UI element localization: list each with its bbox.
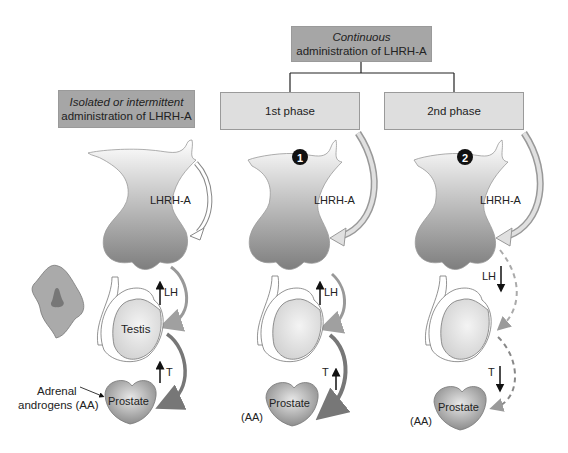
t-label-phase1: T (322, 366, 329, 378)
lh-pathway-dashed-arrow (500, 250, 517, 326)
prostate-label-phase2: Prostate (438, 401, 479, 413)
testis-isolated (97, 277, 163, 362)
lh-label-isolated: LH (164, 286, 178, 298)
testis-label: Testis (121, 323, 150, 335)
adrenal-gland (32, 265, 84, 338)
lh-label-phase1: LH (324, 286, 338, 298)
t-label-phase2: T (488, 366, 495, 378)
t-label-isolated: T (166, 366, 173, 378)
diagram-canvas: 1 2 (0, 0, 568, 453)
aa-label-phase1: (AA) (241, 411, 263, 423)
lhrh-label-phase1: LHRH-A (314, 194, 355, 206)
adrenal-label-line2: androgens (AA) (18, 399, 99, 411)
phase1-marker-number: 1 (297, 152, 303, 164)
lh-label-phase2: LH (482, 270, 496, 282)
tree-connector (290, 62, 454, 92)
testis-phase1 (257, 276, 323, 362)
lhrh-label-isolated: LHRH-A (150, 194, 191, 206)
lhrh-label-phase2: LHRH-A (480, 194, 521, 206)
t-pathway-dashed-arrow (496, 337, 515, 407)
adrenal-label-line1: Adrenal (37, 385, 77, 397)
adrenal-to-prostate-arrow (80, 387, 102, 396)
aa-label-phase2: (AA) (410, 415, 432, 427)
prostate-label-phase1: Prostate (269, 397, 310, 409)
testis-phase2 (425, 276, 491, 362)
phase2-marker-number: 2 (462, 152, 468, 164)
prostate-label-isolated: Prostate (108, 395, 149, 407)
